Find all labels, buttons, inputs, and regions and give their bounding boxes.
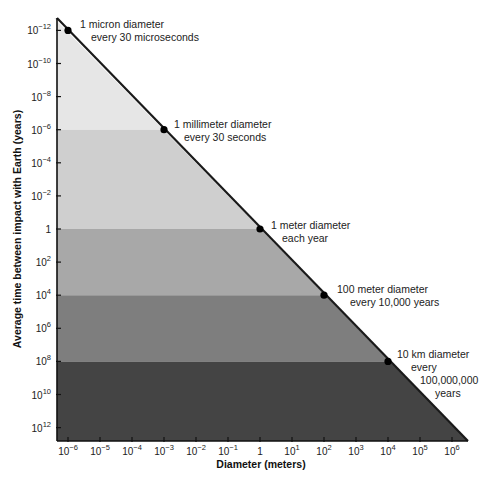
tick-label: 10−5 <box>90 443 110 457</box>
tick-label: 1012 <box>32 420 51 434</box>
tick-label: 10−6 <box>58 443 78 457</box>
tick-label: 104 <box>36 287 51 301</box>
data-point-marker <box>160 126 167 133</box>
size-band <box>57 361 468 441</box>
tick-label: 10−3 <box>154 443 174 457</box>
point-label: every 10,000 years <box>350 296 439 308</box>
tick-label: 1 <box>257 446 263 457</box>
tick-label: 106 <box>444 443 459 457</box>
impact-frequency-chart: 10−1210−1010−810−610−410−211021041061081… <box>0 0 487 484</box>
tick-label: 10−6 <box>31 122 51 136</box>
point-label: every 30 seconds <box>184 131 266 143</box>
tick-label: 1010 <box>32 387 51 401</box>
tick-label: 10−4 <box>31 155 51 169</box>
point-label: every 30 microseconds <box>91 31 199 43</box>
tick-label: 10−1 <box>218 443 238 457</box>
point-label: 100 meter diameter <box>337 283 429 295</box>
data-point-marker <box>384 358 391 365</box>
tick-label: 102 <box>316 443 331 457</box>
y-axis-title: Average time between impact with Earth (… <box>11 110 23 348</box>
point-label: 1 meter diameter <box>271 219 351 231</box>
point-label: each year <box>282 232 329 244</box>
tick-label: 101 <box>284 443 299 457</box>
tick-label: 102 <box>36 254 51 268</box>
data-point-marker <box>64 27 71 34</box>
tick-label: 10−4 <box>122 443 142 457</box>
tick-label: 103 <box>348 443 363 457</box>
tick-label: 10−2 <box>186 443 206 457</box>
tick-label: 106 <box>36 320 51 334</box>
tick-label: 105 <box>412 443 427 457</box>
tick-label: 1 <box>45 224 51 235</box>
point-label: 10 km diameter <box>397 348 470 360</box>
y-axis-ticks: 10−1210−1010−810−610−410−211021041061081… <box>27 22 61 433</box>
tick-label: 10−10 <box>27 56 51 70</box>
data-point-marker <box>256 225 263 232</box>
point-label: 1 millimeter diameter <box>174 118 272 130</box>
data-point-marker <box>320 292 327 299</box>
point-label: years <box>435 387 461 399</box>
size-band <box>57 130 260 229</box>
point-label: 100,000,000 <box>420 374 479 386</box>
tick-label: 10−12 <box>27 22 51 36</box>
point-label: every <box>411 361 437 373</box>
size-band <box>57 295 390 361</box>
tick-label: 10−2 <box>31 188 51 202</box>
tick-label: 104 <box>380 443 395 457</box>
tick-label: 108 <box>36 353 51 367</box>
x-axis-title: Diameter (meters) <box>216 458 305 470</box>
tick-label: 10−8 <box>31 89 51 103</box>
point-label: 1 micron diameter <box>80 18 165 30</box>
